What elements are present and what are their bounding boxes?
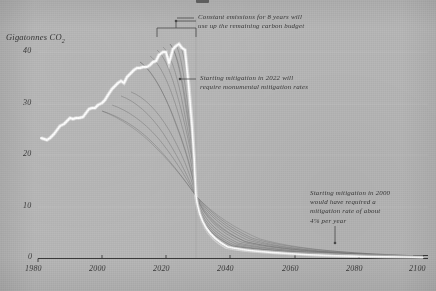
carbon-budget-bracket [157,20,196,37]
emissions-pathway-plot [0,0,436,291]
annotation-constant-emissions-line2: use up the remaining carbon budget [198,21,304,30]
chart-canvas: Gigatonnes CO2 40 30 20 10 0 1980 2000 2… [0,0,436,291]
annotation-mitigation-2000: Starting mitigation in 2000 would have r… [310,188,390,225]
y-tick-30: 30 [23,98,31,107]
annotation-mitigation-2022: Starting mitigation in 2022 will require… [200,73,308,91]
x-tick-2060: 2060 [282,264,299,273]
x-tick-1980: 1980 [25,264,42,273]
x-tick-2040: 2040 [217,264,234,273]
y-tick-40: 40 [23,46,31,55]
x-tick-2020: 2020 [153,264,170,273]
x-tick-2100: 2100 [409,264,426,273]
y-tick-10: 10 [23,201,31,210]
annotation-mitigation-2000-line4: 4% per year [310,216,390,225]
x-tick-2080: 2080 [346,264,363,273]
annotation-mitigation-2022-line1: Starting mitigation in 2022 will [200,73,308,82]
annotation-mitigation-2000-line1: Starting mitigation in 2000 [310,188,390,197]
annotation-mitigation-2022-line2: require monumental mitigation rates [200,82,308,91]
annotation-mitigation-2000-line3: mitigation rate of about [310,206,390,215]
y-axis-label: Gigatonnes CO2 [6,32,65,44]
y-tick-20: 20 [23,149,31,158]
annotation-constant-emissions-line1: Constant emissions for 8 years will [198,12,304,21]
annotation-mitigation-2000-line2: would have required a [310,197,390,206]
x-tick-2000: 2000 [89,264,106,273]
annotation-constant-emissions: Constant emissions for 8 years will use … [198,12,304,30]
y-tick-0: 0 [28,252,32,261]
